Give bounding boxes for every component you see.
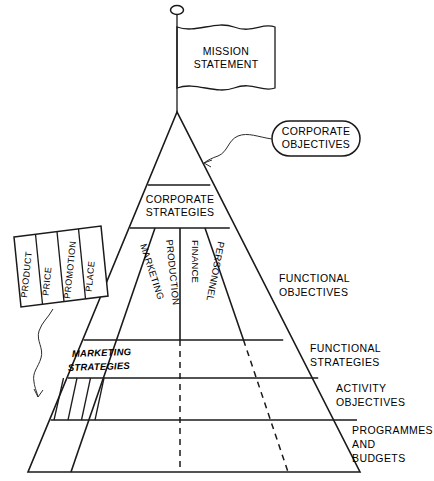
corporate-strategies-line1: CORPORATE bbox=[146, 193, 214, 205]
diagram-canvas: MISSION STATEMENT CORPORATE STRATEGIES bbox=[0, 0, 434, 481]
column-divider-marketing-lower-b bbox=[71, 450, 79, 472]
activity-subdivider-2 bbox=[68, 378, 77, 420]
activity-subdivider-1 bbox=[54, 378, 64, 420]
side-label-activity-objectives-line2: OBJECTIVES bbox=[336, 396, 405, 408]
corporate-objectives-arrow-line bbox=[204, 134, 272, 163]
strategy-pyramid-diagram: MISSION STATEMENT CORPORATE STRATEGIES bbox=[0, 0, 434, 481]
flagpole-finial-icon bbox=[171, 6, 184, 15]
corporate-objectives-line1: CORPORATE bbox=[282, 125, 350, 137]
mission-statement-line1: MISSION bbox=[203, 45, 249, 57]
side-label-programmes-line3: BUDGETS bbox=[352, 452, 406, 464]
corporate-objectives-line2: OBJECTIVES bbox=[282, 138, 350, 150]
side-label-functional-objectives-line2: OBJECTIVES bbox=[279, 286, 348, 298]
side-label-functional-strategies-line1: FUNCTIONAL bbox=[310, 342, 381, 354]
side-label-activity-objectives-line1: ACTIVITY bbox=[336, 382, 386, 394]
marketing-mix-arrow-head bbox=[34, 389, 43, 397]
marketing-strategies-line2: STRATEGIES bbox=[68, 360, 131, 373]
activity-subdivider-3 bbox=[82, 378, 91, 420]
side-label-programmes-line1: PROGRAMMES bbox=[352, 424, 433, 436]
column-label-marketing: MARKETING bbox=[138, 242, 166, 301]
column-divider-finance-personnel-dashed bbox=[244, 340, 289, 472]
side-label-programmes-line2: AND bbox=[352, 438, 375, 450]
side-label-functional-strategies-line2: STRATEGIES bbox=[310, 356, 380, 368]
marketing-mix-arrow-line bbox=[34, 309, 53, 397]
column-label-finance: FINANCE bbox=[190, 240, 201, 283]
column-label-personnel: PERSONNEL bbox=[205, 241, 227, 302]
mission-statement-line2: STATEMENT bbox=[194, 58, 259, 70]
corporate-strategies-line2: STRATEGIES bbox=[146, 206, 215, 218]
marketing-strategies-line1: MARKETING bbox=[72, 346, 132, 359]
side-label-functional-objectives-line1: FUNCTIONAL bbox=[279, 272, 350, 284]
